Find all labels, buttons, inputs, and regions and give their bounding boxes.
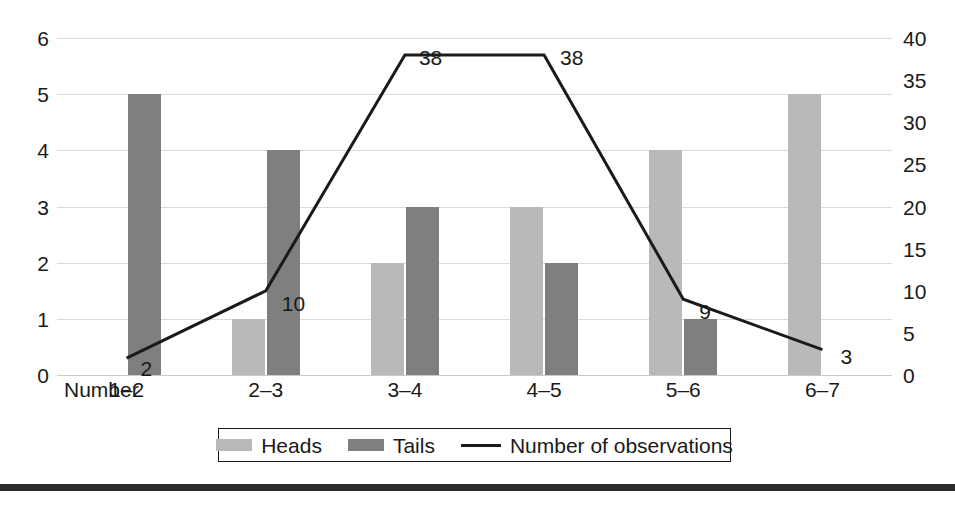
y-axis-right-tick: 25 [903,154,926,175]
x-axis-tick: 4–5 [527,379,562,400]
y-axis-left: 6543210 [5,38,53,375]
data-label: 9 [699,301,711,322]
bottom-rule [0,484,955,491]
legend-label-heads: Heads [261,435,322,456]
y-axis-right-tick: 35 [903,70,926,91]
y-axis-left-tick: 6 [37,28,49,49]
line-series [57,38,892,375]
chart-legend: Heads Tails Number of observations [218,428,731,462]
chart-figure: 6543210 4035302520151050 210383893 Numbe… [0,0,955,505]
data-label: 38 [560,46,583,67]
data-label: 3 [840,345,852,366]
legend-label-tails: Tails [393,435,435,456]
y-axis-right-tick: 15 [903,238,926,259]
y-axis-left-tick: 2 [37,252,49,273]
x-axis: 1–22–33–44–55–66–7 [57,379,892,409]
plot-area: 210383893 [57,38,892,375]
gridline [57,375,892,376]
legend-item-heads: Heads [216,435,322,456]
y-axis-right-tick: 5 [903,322,915,343]
legend-item-observations: Number of observations [461,435,733,456]
data-label: 2 [141,358,153,379]
x-axis-tick: 1–2 [109,379,144,400]
y-axis-left-tick: 5 [37,84,49,105]
legend-label-observations: Number of observations [510,435,733,456]
x-axis-tick: 3–4 [387,379,422,400]
data-label: 10 [282,292,305,313]
y-axis-right-tick: 20 [903,196,926,217]
legend-line-icon [461,444,501,447]
y-axis-left-tick: 1 [37,308,49,329]
legend-swatch-heads-icon [216,439,252,451]
y-axis-right: 4035302520151050 [899,38,947,375]
data-label: 38 [419,46,442,67]
y-axis-left-tick: 3 [37,196,49,217]
y-axis-left-tick: 4 [37,140,49,161]
y-axis-right-tick: 10 [903,280,926,301]
x-axis-tick: 6–7 [805,379,840,400]
y-axis-right-tick: 0 [903,365,915,386]
y-axis-right-tick: 40 [903,28,926,49]
legend-item-tails: Tails [348,435,435,456]
y-axis-right-tick: 30 [903,112,926,133]
x-axis-tick: 2–3 [248,379,283,400]
x-axis-tick: 5–6 [666,379,701,400]
y-axis-left-tick: 0 [37,365,49,386]
legend-swatch-tails-icon [348,439,384,451]
